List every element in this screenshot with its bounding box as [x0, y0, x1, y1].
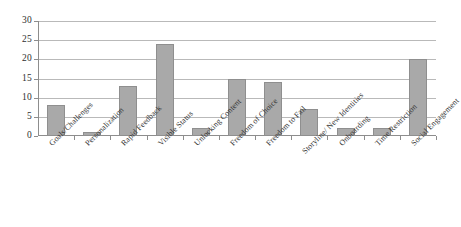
bars-layer	[38, 21, 436, 136]
bar-slot	[38, 21, 74, 136]
bar	[192, 128, 210, 136]
bar-slot	[255, 21, 291, 136]
bar-slot	[147, 21, 183, 136]
bar	[83, 132, 101, 136]
bar	[373, 128, 391, 136]
bar	[156, 44, 174, 136]
x-tick-mark	[400, 136, 401, 140]
x-tick-mark	[74, 136, 75, 140]
bar-slot	[74, 21, 110, 136]
y-tick-label-25: 25	[4, 35, 32, 45]
x-tick-mark	[291, 136, 292, 140]
bar	[228, 79, 246, 137]
bar	[47, 105, 65, 136]
bar-slot	[400, 21, 436, 136]
bar-slot	[219, 21, 255, 136]
x-tick-mark	[364, 136, 365, 140]
bar-slot	[327, 21, 363, 136]
bar	[337, 128, 355, 136]
y-tick-label-15: 15	[4, 74, 32, 84]
bar	[409, 59, 427, 136]
x-tick-mark	[110, 136, 111, 140]
y-tick-label-20: 20	[4, 54, 32, 64]
bar-slot	[291, 21, 327, 136]
y-tick-label-5: 5	[4, 112, 32, 122]
bar-slot	[110, 21, 146, 136]
bar-slot	[183, 21, 219, 136]
x-tick-mark	[255, 136, 256, 140]
y-tick-label-0: 0	[4, 131, 32, 141]
x-tick-mark	[219, 136, 220, 140]
y-tick-label-30: 30	[4, 16, 32, 26]
bar-slot	[364, 21, 400, 136]
y-tick-mark-0	[34, 136, 38, 137]
bar	[264, 82, 282, 136]
x-tick-mark	[436, 136, 437, 140]
x-tick-mark	[327, 136, 328, 140]
y-tick-label-10: 10	[4, 93, 32, 103]
x-tick-mark	[183, 136, 184, 140]
x-tick-mark	[147, 136, 148, 140]
bar	[300, 109, 318, 136]
bar	[119, 86, 137, 136]
